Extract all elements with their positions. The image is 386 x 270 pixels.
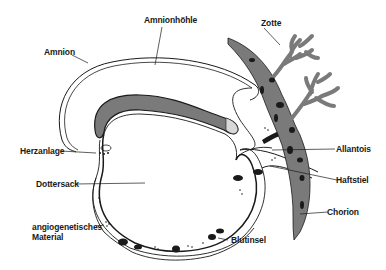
label-dottersack: Dottersack — [36, 180, 79, 189]
label-herzanlage: Herzanlage — [20, 147, 64, 156]
label-allantois: Allantois — [336, 145, 371, 154]
label-amnion: Amnion — [44, 48, 75, 57]
herzanlage-region — [99, 145, 111, 155]
label-blutinsel: Blutinsel — [231, 236, 266, 245]
embryonic-disc — [95, 95, 238, 160]
label-material: Material — [32, 233, 63, 242]
label-amnionhoehle: Amnionhöhle — [144, 16, 197, 25]
label-haftstiel: Haftstiel — [336, 176, 369, 185]
angiogenetic-material-dots — [98, 127, 276, 250]
chorion — [228, 36, 338, 240]
allantois — [236, 130, 284, 158]
label-zotte: Zotte — [261, 19, 281, 28]
label-angiogenetisches: angiogenetisches — [32, 223, 102, 232]
label-chorion: Chorion — [327, 208, 359, 217]
